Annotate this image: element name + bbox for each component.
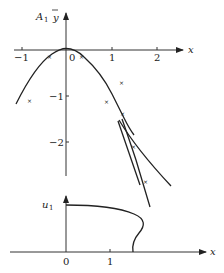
svg-text:×: × [27, 97, 32, 104]
svg-text:1: 1 [49, 204, 53, 212]
svg-text:×: × [131, 143, 136, 150]
bottom-solution-curve [66, 205, 143, 252]
svg-text:A: A [35, 11, 43, 22]
bottom-y-axis-label: u 1 [42, 199, 53, 212]
top-y-axis-label: A 1 y [35, 10, 59, 24]
top-branch-line-right [119, 120, 171, 186]
top-x-tick-label-1: 1 [109, 52, 115, 63]
top-x-axis-label: x [188, 44, 194, 55]
top-x-tick-label-neg1: −1 [14, 52, 29, 63]
bottom-x-tick-label-1: 1 [107, 256, 113, 267]
top-plot: −1 0 1 2 −1 −2 A 1 y x × × × [14, 10, 194, 207]
svg-text:y: y [52, 12, 59, 23]
top-branch-line-left [118, 121, 140, 185]
svg-text:1: 1 [44, 16, 48, 24]
bottom-x-axis-label: x [210, 246, 216, 257]
svg-text:×: × [120, 110, 125, 117]
top-y-tick-label-neg1: −1 [49, 91, 64, 102]
svg-text:×: × [104, 98, 109, 105]
top-x-tick-label-2: 2 [154, 52, 160, 63]
svg-text:u: u [42, 199, 48, 210]
top-y-tick-label-neg2: −2 [49, 137, 64, 148]
svg-text:×: × [143, 178, 148, 185]
bottom-plot: 0 1 u 1 x [10, 196, 216, 267]
diagram-canvas: −1 0 1 2 −1 −2 A 1 y x × × × [0, 0, 224, 273]
svg-text:×: × [79, 53, 84, 60]
top-point-markers: × × × × × × × × [27, 53, 148, 185]
top-x-tick-label-0: 0 [69, 52, 75, 63]
bottom-x-tick-label-0: 0 [63, 256, 69, 267]
svg-text:×: × [47, 53, 52, 60]
svg-text:×: × [119, 79, 124, 86]
